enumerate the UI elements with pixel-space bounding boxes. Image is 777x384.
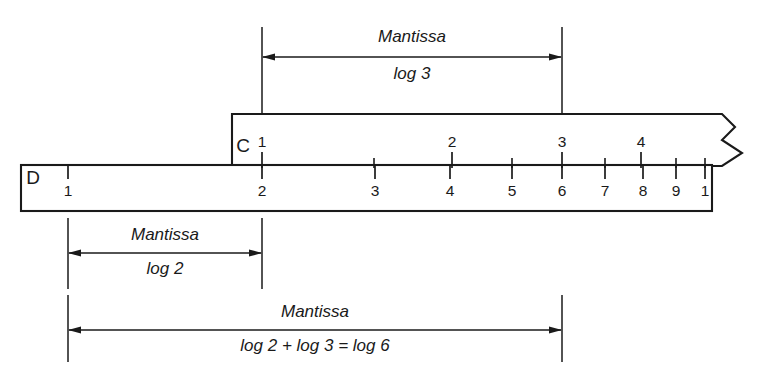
d-scale-number: 9 (672, 182, 681, 199)
c-rule-letter: C (236, 135, 250, 156)
annotation-expression: log 2 (147, 259, 184, 278)
arrowhead-right (549, 53, 562, 60)
c-rule-body (232, 114, 742, 166)
annotation-mantissa-log2-plus-log3: Mantissalog 2 + log 3 = log 6 (68, 295, 562, 362)
d-rule-letter: D (26, 167, 40, 188)
sliderule-figure: C D 1234 1234567891 Mantissalog 3Mantiss… (0, 0, 777, 384)
d-scale-number: 6 (558, 182, 567, 199)
arrowhead-right (249, 249, 262, 256)
c-scale-number: 1 (258, 133, 267, 150)
annotation-expression: log 3 (394, 64, 431, 83)
annotation-expression: log 2 + log 3 = log 6 (240, 336, 390, 355)
d-scale-number: 2 (258, 182, 267, 199)
d-scale-number: 7 (601, 182, 610, 199)
d-scale-number: 1 (64, 182, 73, 199)
d-scale-number: 3 (371, 182, 380, 199)
sliderule-diagram: C D 1234 1234567891 Mantissalog 3Mantiss… (0, 0, 777, 384)
annotation-title: Mantissa (281, 302, 349, 321)
c-scale-number: 4 (637, 133, 646, 150)
d-scale-number: 1 (701, 182, 710, 199)
c-rule-group: C (232, 114, 742, 166)
arrowhead-left (68, 326, 81, 333)
annotation-mantissa-log3: Mantissalog 3 (262, 27, 562, 114)
annotation-mantissa-log2: Mantissalog 2 (68, 218, 262, 289)
arrowhead-left (68, 249, 81, 256)
annotation-title: Mantissa (378, 27, 446, 46)
arrowhead-left (262, 53, 275, 60)
c-scale-number: 3 (558, 133, 567, 150)
annotation-title: Mantissa (131, 225, 199, 244)
c-scale-number: 2 (448, 133, 457, 150)
d-scale-number: 8 (639, 182, 648, 199)
d-scale-number: 5 (508, 182, 517, 199)
arrowhead-right (549, 326, 562, 333)
d-scale-number: 4 (446, 182, 455, 199)
